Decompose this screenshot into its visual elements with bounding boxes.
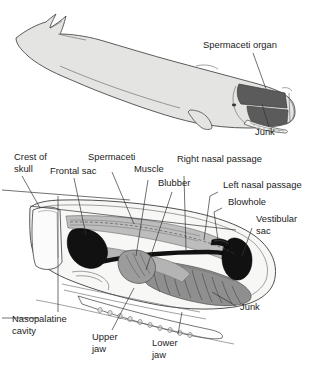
label-frontal-sac: Frontal sac [50, 165, 97, 176]
label-muscle: Muscle [134, 163, 164, 174]
label-vestibular-sac: Vestibular [256, 213, 297, 224]
label-junk-top: Junk [255, 126, 275, 137]
label-nasopalatine-cavity: Nasopalatine [12, 313, 67, 324]
label-crest-of-skull-line2: skull [14, 163, 33, 174]
label-junk-bottom: Junk [240, 301, 260, 312]
whale-eye [232, 104, 236, 107]
label-lower-jaw-line2: jaw [151, 349, 166, 360]
label-right-nasal-passage: Right nasal passage [177, 153, 262, 164]
label-blubber: Blubber [158, 177, 190, 188]
label-upper-jaw-line2: jaw [91, 343, 106, 354]
label-blowhole: Blowhole [228, 196, 266, 207]
label-spermaceti-organ: Spermaceti organ [203, 39, 277, 50]
label-spermaceti: Spermaceti [88, 151, 135, 162]
label-left-nasal-passage: Left nasal passage [223, 179, 302, 190]
label-vestibular-sac-line2: sac [256, 225, 271, 236]
label-upper-jaw: Upper [92, 331, 118, 342]
label-crest-of-skull: Crest of [14, 151, 47, 162]
whale-anatomy-figure: Spermaceti organ Junk [0, 0, 317, 377]
label-lower-jaw: Lower [152, 337, 178, 348]
label-nasopalatine-cavity-line2: cavity [12, 325, 36, 336]
